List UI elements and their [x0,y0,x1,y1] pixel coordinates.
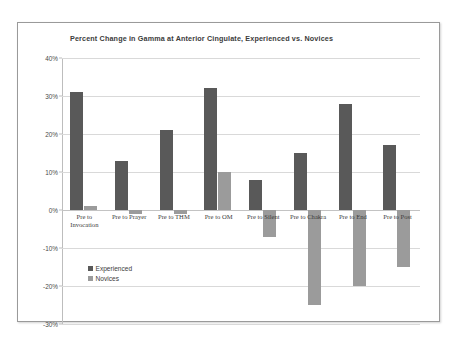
bar-experienced [115,161,128,210]
x-axis-category-label: Pre to Post [363,213,433,221]
chart-legend: ExperiencedNovices [88,265,132,285]
chart-container: Percent Change in Gamma at Anterior Cing… [17,22,440,322]
legend-item: Experienced [88,265,132,272]
y-axis-tick-label: -20% [43,283,58,290]
bar-experienced [383,145,396,210]
bar-experienced [249,180,262,210]
bar-group [152,58,197,324]
gridline [62,324,420,325]
y-axis-tick-label: 10% [45,169,58,176]
bar-group [286,58,331,324]
bar-group [241,58,286,324]
legend-label: Experienced [96,265,133,272]
y-axis-tick-label: 40% [45,55,58,62]
bar-novices [218,172,231,210]
bar-novices [84,206,97,210]
bar-experienced [70,92,83,210]
legend-label: Novices [96,275,119,282]
y-axis-tick-label: 20% [45,131,58,138]
legend-item: Novices [88,275,132,282]
bar-experienced [204,88,217,210]
bar-novices [308,210,321,305]
legend-swatch-icon [88,276,93,281]
bar-group [375,58,420,324]
bar-group [196,58,241,324]
bar-experienced [339,104,352,210]
chart-title: Percent Change in Gamma at Anterior Cing… [70,34,333,43]
bar-experienced [160,130,173,210]
bar-group [331,58,376,324]
legend-swatch-icon [88,266,93,271]
y-axis-tick-label: 30% [45,93,58,100]
y-axis-tick-label: -10% [43,245,58,252]
y-axis-tick-label: -30% [43,321,58,328]
bar-experienced [294,153,307,210]
